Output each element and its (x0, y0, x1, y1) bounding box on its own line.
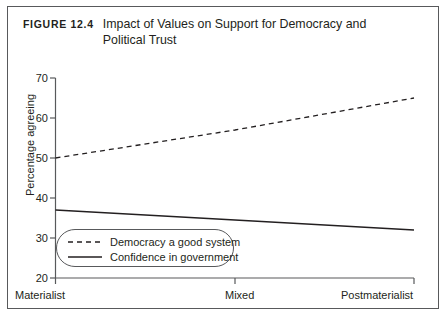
series-line-confidence-in-government (56, 210, 415, 230)
dashed-line-icon (67, 237, 103, 247)
legend-label-confidence-in-government: Confidence in government (110, 251, 238, 263)
solid-line-icon (67, 252, 103, 262)
legend-item-democracy-a-good-system: Democracy a good system (67, 234, 233, 249)
chart-legend: Democracy a good system Confidence in go… (56, 229, 234, 267)
legend-item-confidence-in-government: Confidence in government (67, 249, 233, 264)
figure-border: Figure 12.4 Impact of Values on Support … (7, 6, 439, 309)
series-line-democracy-a-good-system (56, 98, 415, 158)
figure-root: Figure 12.4 Impact of Values on Support … (0, 0, 446, 317)
chart-plot-area: Percentage agreeing 70 60 50 40 30 20 Ma… (8, 7, 440, 310)
legend-label-democracy-a-good-system: Democracy a good system (110, 236, 240, 248)
